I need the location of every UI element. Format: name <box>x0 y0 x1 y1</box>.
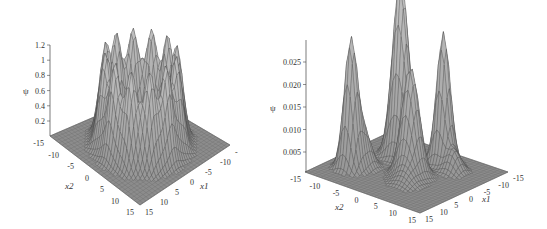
left-x1-tick-label: 0 <box>190 178 194 187</box>
right-x1-tick-label: 15 <box>425 215 433 224</box>
right-x2-axis-label: x2 <box>334 202 344 212</box>
left-plot-canvas: 1.210.80.60.40.2 ψ -15-10-5051015 151050… <box>0 0 270 229</box>
left-surface <box>84 28 197 181</box>
right-x2-tick-label: -10 <box>309 182 320 191</box>
right-surface <box>329 0 473 193</box>
left-x2-tick-label: 15 <box>126 208 134 217</box>
left-x2-tick-label: 10 <box>111 197 119 206</box>
right-x1-axis-label: x1 <box>481 194 491 204</box>
left-x1-tick-label: -5 <box>205 168 212 177</box>
right-z-axis-label: ψ <box>270 103 276 113</box>
left-z-axis-label: ψ <box>23 86 29 96</box>
left-surface-plot: 1.210.80.60.40.2 ψ -15-10-5051015 151050… <box>0 0 270 229</box>
right-x2-tick-label: 15 <box>408 216 416 225</box>
left-x1-tick-label: 15 <box>145 208 153 217</box>
left-z-ticks: 1.210.80.60.40.2 <box>35 41 50 126</box>
left-z-tick-label: 0.8 <box>35 71 45 80</box>
left-z-tick-label: 0.6 <box>35 87 45 96</box>
left-x1-tick-label: -10 <box>220 158 231 167</box>
left-x1-tick-label: - <box>235 148 238 157</box>
right-x1-tick-label: -15 <box>513 174 524 183</box>
right-x1-tick-label: 5 <box>454 201 458 210</box>
right-x2-tick-label: 5 <box>374 202 378 211</box>
right-x1-tick-label: 0 <box>469 195 473 204</box>
left-x1-tick-label: 5 <box>175 188 179 197</box>
right-x2-tick-label: -5 <box>333 189 340 198</box>
right-x2-tick-label: 0 <box>355 196 359 205</box>
left-x2-tick-label: -10 <box>48 151 59 160</box>
right-plot-canvas: 0.0250.0200.0150.0100.005 ψ -15-10-50510… <box>270 0 547 229</box>
left-x2-tick-label: 5 <box>100 185 104 194</box>
left-x1-tick-label: 10 <box>160 198 168 207</box>
right-x1-tick-label: -10 <box>498 181 509 190</box>
left-x2-tick-label: -5 <box>67 162 74 171</box>
right-z-tick-label: 0.005 <box>283 148 301 157</box>
right-z-tick-label: 0.015 <box>283 103 301 112</box>
right-z-tick-label: 0.020 <box>283 81 301 90</box>
left-x2-tick-label: -15 <box>33 139 44 148</box>
left-x2-axis-label: x2 <box>64 181 74 191</box>
left-x1-axis-label: x1 <box>199 181 209 191</box>
left-z-tick-label: 0.2 <box>35 117 45 126</box>
right-z-ticks: 0.0250.0200.0150.0100.005 <box>283 58 306 157</box>
right-x2-tick-label: 10 <box>389 209 397 218</box>
right-surface-plot: 0.0250.0200.0150.0100.005 ψ -15-10-50510… <box>270 0 547 229</box>
right-x2-tick-label: -15 <box>290 175 301 184</box>
left-z-tick-label: 0.4 <box>35 102 45 111</box>
right-z-tick-label: 0.010 <box>283 126 301 135</box>
left-x2-tick-label: 0 <box>85 174 89 183</box>
left-z-tick-label: 1.2 <box>35 41 45 50</box>
right-z-tick-label: 0.025 <box>283 58 301 67</box>
right-x1-tick-label: 10 <box>440 208 448 217</box>
left-z-tick-label: 1 <box>41 56 45 65</box>
